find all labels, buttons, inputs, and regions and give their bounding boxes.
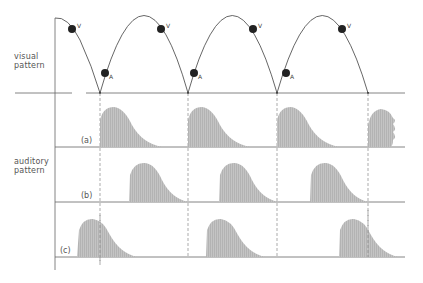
v-markers [68, 25, 346, 33]
a-dot-1 [101, 69, 109, 77]
a-dot-2 [190, 69, 198, 77]
svg-text:V: V [77, 22, 82, 29]
svg-text:A: A [198, 73, 203, 80]
row-a-envelopes [100, 107, 395, 147]
v-dot-4 [338, 25, 346, 33]
v-dot-1 [68, 25, 76, 33]
svg-text:V: V [166, 22, 171, 29]
svg-text:A: A [290, 73, 295, 80]
svg-text:V: V [258, 22, 263, 29]
row-c-envelopes [77, 219, 398, 257]
row-a-label: (a) [81, 136, 92, 145]
auditory-pattern-label: auditory pattern [14, 157, 49, 175]
row-b-label: (b) [81, 191, 92, 200]
a-marker-labels: A A A [109, 73, 295, 80]
v-dot-3 [249, 25, 257, 33]
svg-text:A: A [109, 73, 114, 80]
bouncing-ball-diagram: V V V V A A A [0, 0, 423, 283]
visual-pattern-label: visual pattern [14, 52, 45, 70]
v-dot-2 [157, 25, 165, 33]
row-b-envelopes [129, 163, 368, 202]
ball-trajectory [55, 16, 368, 94]
a-markers [101, 69, 290, 77]
row-c-label: (c) [60, 246, 71, 255]
svg-text:V: V [347, 22, 352, 29]
a-dot-3 [282, 69, 290, 77]
